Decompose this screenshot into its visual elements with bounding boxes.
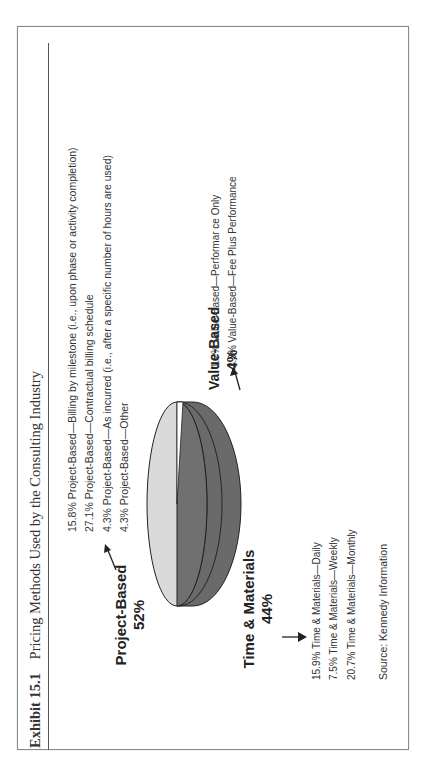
breakdown-item: 4.3% Project-Based—Other xyxy=(116,147,133,532)
breakdown-item: 4.3% Project-Based—As incurred (i.e., af… xyxy=(99,147,116,532)
arrow-icon xyxy=(100,542,120,572)
breakdown-item: 7.5% Time & Materials—Weekly xyxy=(325,529,342,680)
pie-chart xyxy=(135,394,255,614)
project-based-breakdown: 15.8% Project-Based—Billing by milestone… xyxy=(64,147,133,532)
exhibit-number: Exhibit 15.1 xyxy=(27,673,43,748)
breakdown-item: 27.1% Project-Based—Contractual billing … xyxy=(81,147,98,532)
source-note: Source: Kennedy Information xyxy=(377,544,389,680)
breakdown-item: 1.7% Value-Based—Performar ce Only xyxy=(207,176,224,368)
breakdown-item: 2.3% Value-Based—Fee Plus Performance xyxy=(224,176,241,368)
group-name: Time & Materials xyxy=(240,544,258,674)
arrow-icon xyxy=(224,364,244,394)
value-based-breakdown: 1.7% Value-Based—Performar ce Only 2.3% … xyxy=(207,176,242,368)
exhibit-title: Exhibit 15.1 Pricing Methods Used by the… xyxy=(27,371,44,748)
time-materials-breakdown: 15.9% Time & Materials—Daily 7.5% Time &… xyxy=(308,529,360,680)
group-percent: 44% xyxy=(258,544,276,674)
rotated-exhibit-page: Exhibit 15.1 Pricing Methods Used by the… xyxy=(0,0,426,784)
breakdown-item: 20.7% Time & Materials—Monthly xyxy=(343,529,360,680)
time-materials-label: Time & Materials 44% xyxy=(240,544,276,674)
arrow-icon xyxy=(280,627,310,647)
breakdown-item: 15.8% Project-Based—Billing by milestone… xyxy=(64,147,81,532)
title-divider xyxy=(48,43,49,750)
exhibit-title-text: Pricing Methods Used by the Consulting I… xyxy=(27,371,43,659)
breakdown-item: 15.9% Time & Materials—Daily xyxy=(308,529,325,680)
